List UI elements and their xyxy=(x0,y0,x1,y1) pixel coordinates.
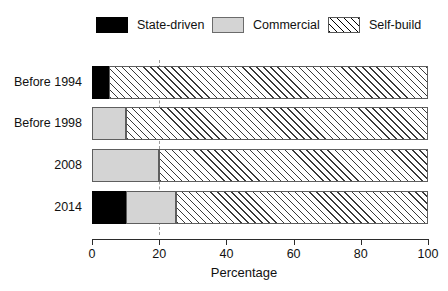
chart-legend: State-driven Commercial Self-build xyxy=(0,0,448,46)
bar-segment-commercial xyxy=(92,149,159,182)
x-axis-tick xyxy=(428,239,429,245)
bar-row xyxy=(92,149,428,182)
bar-row xyxy=(92,66,428,99)
bar-segment-self-build xyxy=(126,107,428,140)
gray-swatch-icon xyxy=(212,17,244,33)
bar-row xyxy=(92,191,428,224)
y-axis-tick-label: 2014 xyxy=(0,200,82,214)
bar-segment-commercial xyxy=(126,191,176,224)
bar-segment-self-build xyxy=(109,66,428,99)
plot-area xyxy=(92,60,428,235)
y-axis-tick-label: 2008 xyxy=(0,158,82,172)
legend-label-state-driven: State-driven xyxy=(137,17,204,33)
hatched-swatch-icon xyxy=(328,17,360,33)
bar-segment-commercial xyxy=(92,107,126,140)
legend-item-state-driven: State-driven xyxy=(96,17,204,33)
legend-item-commercial: Commercial xyxy=(212,17,320,33)
x-axis-tick xyxy=(294,239,295,245)
stacked-bar-chart: State-driven Commercial Self-build Befor… xyxy=(0,0,448,291)
x-axis-title: Percentage xyxy=(0,265,448,280)
legend-label-commercial: Commercial xyxy=(253,17,320,33)
x-axis-tick-label: 20 xyxy=(139,247,179,261)
x-axis-title-text: Percentage xyxy=(211,265,278,280)
legend-label-self-build: Self-build xyxy=(369,17,421,33)
legend-item-self-build: Self-build xyxy=(328,17,421,33)
bar-segment-state-driven xyxy=(92,66,109,99)
black-swatch-icon xyxy=(96,17,128,33)
x-axis-line xyxy=(92,239,429,240)
y-axis-tick-label: Before 1994 xyxy=(0,75,82,89)
x-axis-tick-label: 80 xyxy=(341,247,381,261)
x-axis-tick-label: 100 xyxy=(408,247,448,261)
bar-row xyxy=(92,107,428,140)
x-axis-tick-label: 40 xyxy=(206,247,246,261)
x-axis-tick xyxy=(361,239,362,245)
x-axis-tick xyxy=(92,239,93,245)
x-axis-tick xyxy=(159,239,160,245)
y-axis-tick-label: Before 1998 xyxy=(0,116,82,130)
x-axis-tick-label: 0 xyxy=(72,247,112,261)
bar-segment-self-build xyxy=(176,191,428,224)
bar-segment-state-driven xyxy=(92,191,126,224)
x-axis-tick-label: 60 xyxy=(274,247,314,261)
x-axis-tick xyxy=(226,239,227,245)
bar-segment-self-build xyxy=(159,149,428,182)
